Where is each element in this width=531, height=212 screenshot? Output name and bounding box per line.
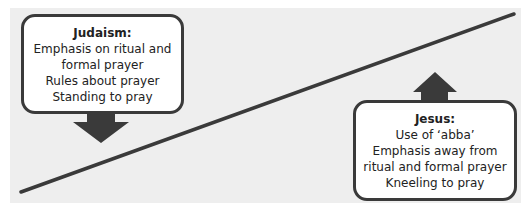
judaism-title: Judaism: (24, 25, 181, 41)
jesus-line-2: Emphasis away from (356, 143, 514, 159)
jesus-line-1: Use of ‘abba’ (356, 127, 514, 143)
judaism-line-2: formal prayer (24, 57, 181, 73)
judaism-line-3: Rules about prayer (24, 73, 181, 89)
judaism-box: Judaism: Emphasis on ritual and formal p… (21, 14, 184, 114)
jesus-line-3: ritual and formal prayer (356, 159, 514, 175)
jesus-title: Jesus: (356, 111, 514, 127)
judaism-line-1: Emphasis on ritual and (24, 41, 181, 57)
jesus-line-4: Kneeling to pray (356, 175, 514, 191)
arrow-up-icon (413, 72, 457, 101)
arrow-down-icon (73, 112, 129, 143)
judaism-line-4: Standing to pray (24, 89, 181, 105)
jesus-box: Jesus: Use of ‘abba’ Emphasis away from … (353, 100, 517, 201)
